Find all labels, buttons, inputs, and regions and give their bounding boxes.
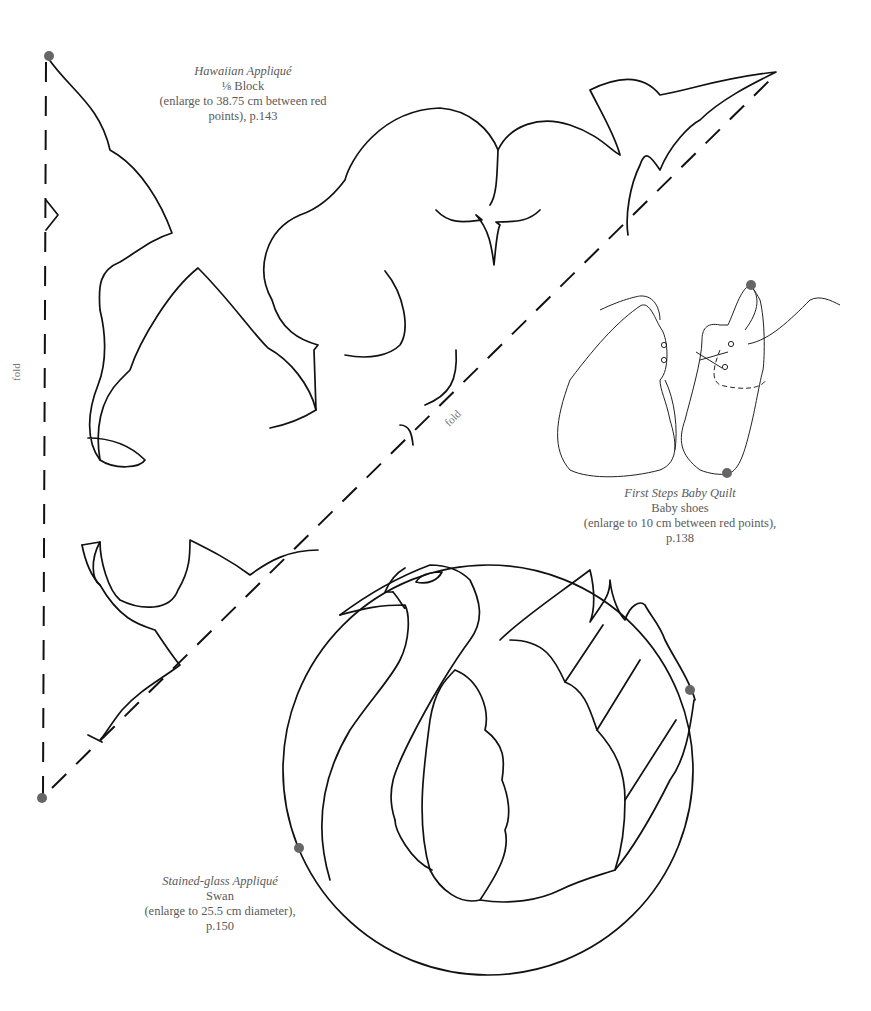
caption-instruction-cont: p.150 (122, 919, 318, 934)
swan-outline (283, 565, 695, 975)
caption-subtitle: ⅛ Block (128, 79, 358, 94)
reference-point (685, 685, 695, 695)
fold-label-left: fold (10, 363, 22, 381)
caption-instruction: (enlarge to 38.75 cm between red (128, 94, 358, 109)
reference-points (37, 51, 756, 853)
reference-point (294, 843, 304, 853)
caption-subtitle: Swan (122, 889, 318, 904)
caption-hawaiian-applique: Hawaiian Appliqué ⅛ Block (enlarge to 38… (128, 64, 358, 124)
caption-baby-shoes: First Steps Baby Quilt Baby shoes (enlar… (560, 486, 800, 546)
hawaiian-applique-outline (46, 58, 776, 742)
caption-subtitle: Baby shoes (560, 501, 800, 516)
reference-point (37, 793, 47, 803)
caption-instruction: (enlarge to 25.5 cm diameter), (122, 904, 318, 919)
reference-point (746, 280, 756, 290)
caption-title: Hawaiian Appliqué (128, 64, 358, 79)
reference-point (722, 468, 732, 478)
caption-instruction: (enlarge to 10 cm between red points), (560, 516, 800, 531)
caption-instruction-cont: points), p.143 (128, 109, 358, 124)
caption-title: First Steps Baby Quilt (560, 486, 800, 501)
baby-shoes-outline (558, 285, 840, 477)
caption-title: Stained-glass Appliqué (122, 874, 318, 889)
reference-point (44, 51, 54, 61)
caption-instruction-cont: p.138 (560, 531, 800, 546)
caption-swan: Stained-glass Appliqué Swan (enlarge to … (122, 874, 318, 934)
